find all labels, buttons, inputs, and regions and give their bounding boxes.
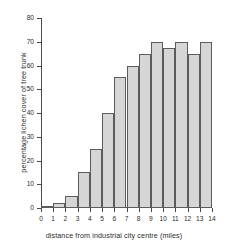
y-tick-label-20: 20	[27, 157, 34, 164]
x-tick-13	[200, 208, 201, 212]
bar-3-4	[78, 172, 90, 208]
lichen-cover-bar-chart: percentage lichen cover of tree trunk 01…	[0, 0, 228, 250]
x-tick-0	[41, 208, 42, 212]
bar-8-9	[139, 54, 151, 208]
bar-5-6	[102, 113, 114, 208]
plot-area: 01020304050607080 01234567891011121314	[41, 18, 212, 208]
x-tick-1	[53, 208, 54, 212]
x-tick-11	[175, 208, 176, 212]
x-tick-12	[188, 208, 189, 212]
y-tick-label-50: 50	[27, 85, 34, 92]
x-tick-7	[127, 208, 128, 212]
bar-12-13	[188, 54, 200, 208]
y-tick-label-10: 10	[27, 180, 34, 187]
bar-series	[41, 18, 212, 208]
y-tick-label-40: 40	[27, 109, 34, 116]
x-tick-10	[163, 208, 164, 212]
x-tick-4	[90, 208, 91, 212]
bar-13-14	[200, 42, 212, 208]
y-tick-label-30: 30	[27, 133, 34, 140]
bar-7-8	[127, 66, 139, 209]
x-tick-3	[78, 208, 79, 212]
x-tick-label-14: 14	[205, 215, 219, 222]
bar-2-3	[65, 196, 77, 208]
bar-10-11	[163, 48, 175, 208]
x-tick-2	[65, 208, 66, 212]
bar-11-12	[175, 42, 187, 208]
bar-9-10	[151, 42, 163, 208]
bar-1-2	[53, 203, 65, 208]
bar-0-1	[41, 206, 53, 208]
x-tick-6	[114, 208, 115, 212]
x-tick-8	[139, 208, 140, 212]
x-tick-9	[151, 208, 152, 212]
x-tick-14	[212, 208, 213, 212]
y-tick-label-80: 80	[27, 14, 34, 21]
x-axis-title: distance from industrial city centre (mi…	[0, 231, 228, 240]
y-tick-label-0: 0	[30, 204, 34, 211]
x-tick-5	[102, 208, 103, 212]
y-tick-label-60: 60	[27, 62, 34, 69]
bar-6-7	[114, 77, 126, 208]
y-tick-label-70: 70	[27, 38, 34, 45]
bar-4-5	[90, 149, 102, 208]
